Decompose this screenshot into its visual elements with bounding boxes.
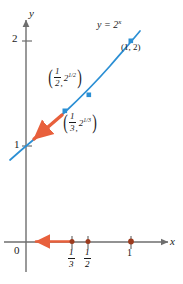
x-tick-label-one-half: 1 2 <box>84 248 91 269</box>
marker-point-one-half <box>87 93 92 98</box>
fraction-numerator: 1 <box>54 67 61 76</box>
exponential-function-figure: y x 2 1 0 y = 2x (1, 2) ( 1 2 , 21/2 ) (… <box>0 0 183 284</box>
right-paren: ) <box>92 114 97 131</box>
fraction-denominator: 2 <box>84 260 91 269</box>
y-tick-label-1: 1 <box>14 139 20 150</box>
graph-canvas <box>0 0 183 284</box>
power-exponent: 1/2 <box>68 72 76 78</box>
fraction-numerator: 1 <box>84 248 91 257</box>
x-axis-label: x <box>170 236 175 247</box>
x-tick-label-one-third: 1 3 <box>68 248 75 269</box>
comma-separator: , <box>61 79 63 88</box>
power-expression: 21/2 <box>64 72 76 83</box>
curve-equation-label: y = 2x <box>97 19 121 30</box>
point-label-one-third: ( 1 3 , 21/3 ) <box>62 112 98 133</box>
x-dot-one-third <box>70 239 75 244</box>
power-expression: 21/3 <box>79 117 91 128</box>
right-paren: ) <box>77 69 82 86</box>
curve-equation-exponent: x <box>118 18 121 26</box>
point-label-one-half: ( 1 2 , 21/2 ) <box>47 67 83 88</box>
origin-label: 0 <box>14 245 20 256</box>
fraction-numerator: 1 <box>68 248 75 257</box>
power-exponent: 1/3 <box>83 117 91 123</box>
curve-highlight-arrow <box>34 115 62 139</box>
x-dot-one <box>128 239 134 245</box>
left-paren: ( <box>63 114 68 131</box>
curve-equation-lhs: y = 2 <box>97 19 118 30</box>
fraction-numerator: 1 <box>69 112 76 121</box>
x-tick-label-one: 1 <box>127 248 132 258</box>
comma-separator: , <box>76 124 78 133</box>
y-tick-label-2: 2 <box>12 33 18 44</box>
left-paren: ( <box>48 69 53 86</box>
point-label-one-two: (1, 2) <box>121 43 141 52</box>
y-axis-label: y <box>29 8 34 19</box>
x-dot-one-half <box>86 239 91 244</box>
fraction-denominator: 3 <box>68 260 75 269</box>
